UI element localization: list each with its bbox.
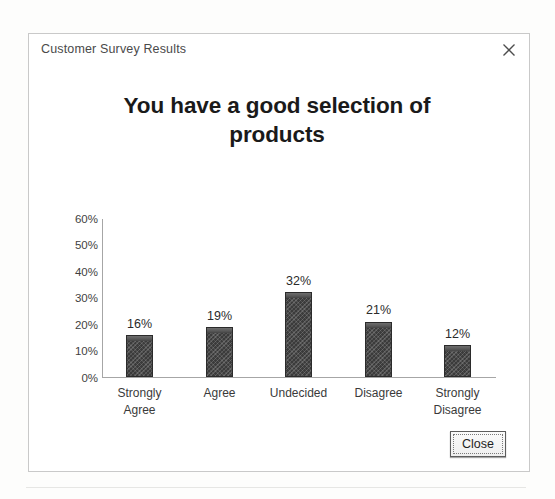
dialog-title: Customer Survey Results <box>41 42 186 56</box>
category-line-2: Agree <box>123 403 155 417</box>
y-tick-label: 50% <box>54 239 98 251</box>
bar-value-label-strongly-disagree: 12% <box>445 327 470 341</box>
bar-value-label-agree: 19% <box>207 309 232 323</box>
y-tick-label: 10% <box>54 345 98 357</box>
x-category-label-strongly-agree: Strongly Agree <box>117 385 161 420</box>
x-axis-line <box>102 377 496 378</box>
y-axis-line <box>102 219 103 378</box>
page-artifact-line <box>26 487 526 488</box>
bar-value-label-undecided: 32% <box>286 274 311 288</box>
y-tick-label: 30% <box>54 292 98 304</box>
x-category-label-strongly-disagree: Strongly Disagree <box>433 385 481 420</box>
bar-strongly-agree[interactable] <box>126 335 153 377</box>
category-line-2: Disagree <box>433 403 481 417</box>
y-tick-label: 40% <box>54 266 98 278</box>
bar-agree[interactable] <box>206 327 233 377</box>
close-button[interactable]: Close <box>450 431 506 457</box>
y-tick-label: 60% <box>54 213 98 225</box>
x-category-label-agree: Agree <box>203 385 235 402</box>
x-category-label-disagree: Disagree <box>354 385 402 402</box>
dialog-titlebar: Customer Survey Results <box>29 34 529 67</box>
survey-bar-chart: You have a good selection of products 60… <box>29 67 529 427</box>
chart-plot-area: 60% 50% 40% 30% 20% 10% 0% 16% 19% 32% 2… <box>29 67 529 427</box>
bar-value-label-strongly-agree: 16% <box>127 317 152 331</box>
y-tick-label: 20% <box>54 319 98 331</box>
category-line-1: Strongly <box>117 386 161 400</box>
bar-disagree[interactable] <box>365 322 392 378</box>
customer-survey-dialog: Customer Survey Results You have a good … <box>28 33 530 472</box>
close-button-label: Close <box>451 432 505 456</box>
x-category-label-undecided: Undecided <box>270 385 327 402</box>
bar-undecided[interactable] <box>285 292 312 377</box>
category-line-1: Strongly <box>435 386 479 400</box>
close-x-icon[interactable] <box>497 39 521 61</box>
y-axis-tick-labels: 60% 50% 40% 30% 20% 10% 0% <box>54 67 98 427</box>
y-tick-label: 0% <box>54 372 98 384</box>
bar-value-label-disagree: 21% <box>366 303 391 317</box>
bar-strongly-disagree[interactable] <box>444 345 471 377</box>
